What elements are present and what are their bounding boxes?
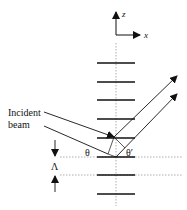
incident-beam-label-line1: Incident — [8, 107, 41, 118]
reflected-beams — [114, 76, 177, 157]
incident-ray-lower — [44, 126, 108, 154]
incident-ray-upper — [44, 112, 114, 137]
incident-beams — [44, 112, 114, 154]
incident-beam-label-line2: beam — [8, 119, 30, 130]
incident-angle-label: θ — [85, 147, 90, 158]
reflected-ray-upper — [114, 76, 177, 137]
period-label: Λ — [51, 161, 59, 172]
construction-line — [108, 137, 114, 154]
x-axis-label: x — [143, 30, 148, 40]
path-difference-construction — [108, 137, 125, 157]
bragg-reflection-diagram: z x θ θ′ Incident beam — [0, 0, 187, 210]
coordinate-axes: z x — [116, 9, 148, 40]
reflected-angle-label: θ′ — [126, 147, 133, 158]
z-axis-label: z — [121, 9, 126, 19]
